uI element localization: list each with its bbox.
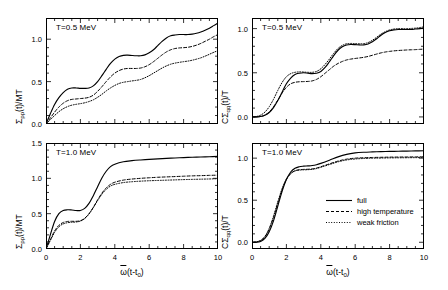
y-axis-label-symbol: Σ (14, 119, 24, 124)
y-tick-label: 1.0 (218, 154, 248, 163)
y-axis-label-subscript: pp (18, 237, 25, 244)
x-tick-label: 4 (113, 253, 117, 262)
omega-bar-symbol: ω (120, 267, 127, 277)
y-axis-label-symbol: CΣ (220, 238, 230, 249)
legend-item-high-temperature: high temperature (326, 206, 414, 217)
y-tick-label: 1.0 (12, 174, 42, 183)
y-tick-label: 1.0 (218, 24, 248, 33)
panel-title-top-right: T=0.5 MeV (262, 23, 302, 32)
y-axis-label-rest: (t)/MT (14, 214, 24, 237)
x-tick-label: 6 (353, 253, 357, 262)
x-tick-label: 2 (284, 253, 288, 262)
x-axis-label-close: ) (347, 267, 350, 277)
panel-title-bottom-left: T=1.0 MeV (56, 148, 96, 157)
y-axis-label-subscript: qq (224, 231, 231, 238)
x-axis-label-right: ω(t-t0) (326, 267, 349, 278)
x-tick-label: 10 (420, 253, 428, 262)
y-tick-label: 0.5 (12, 77, 42, 86)
panel-top-right: T=0.5 MeV (252, 18, 424, 124)
y-axis-label-subscript: qq (224, 106, 231, 113)
y-tick-label: 0.5 (218, 68, 248, 77)
legend-item-full: full (326, 195, 414, 206)
y-axis-label-symbol: Σ (14, 244, 24, 249)
plot-area-bottom-left (46, 143, 218, 249)
legend-swatch-dotted (326, 219, 352, 226)
x-tick-label: 0 (44, 253, 48, 262)
y-axis-label-symbol: CΣ (220, 113, 230, 124)
x-tick-label: 2 (78, 253, 82, 262)
y-tick-label: 0.5 (218, 196, 248, 205)
panel-top-left: T=0.5 MeV (46, 18, 218, 124)
x-axis-label-close: ) (141, 267, 144, 277)
legend-label-high-temperature: high temperature (357, 207, 414, 216)
x-axis-label-rest: (t-t (333, 267, 343, 277)
y-axis-label-subscript: pp (18, 112, 25, 119)
y-axis-label-bottom-right: CΣqq(t)/T (220, 215, 231, 249)
y-axis-label-top-right: CΣqq(t)/T (220, 90, 231, 124)
x-tick-label: 8 (182, 253, 186, 262)
legend-label-weak-friction: weak friction (357, 218, 399, 227)
omega-bar-symbol: ω (326, 267, 333, 277)
plot-area-top-right (252, 18, 424, 124)
x-axis-label-rest: (t-t (127, 267, 137, 277)
plot-area-top-left (46, 18, 218, 124)
x-tick-label: 0 (250, 253, 254, 262)
panel-bottom-right: T=1.0 MeV full high temperature weak fri… (252, 143, 424, 249)
y-axis-label-rest: (t)/MT (14, 89, 24, 112)
x-tick-label: 8 (388, 253, 392, 262)
panel-title-top-left: T=0.5 MeV (56, 23, 96, 32)
y-tick-label: 1.5 (12, 139, 42, 148)
x-axis-label-left: ω(t-t0) (120, 267, 143, 278)
legend-label-full: full (357, 196, 367, 205)
legend-item-weak-friction: weak friction (326, 217, 414, 228)
x-tick-label: 10 (214, 253, 222, 262)
legend-swatch-solid (326, 197, 352, 204)
figure-canvas: T=0.5 MeV 0.00.51.0 Σpp(t)/MT T=1.0 MeV … (0, 0, 448, 290)
y-tick-label: 1.0 (12, 35, 42, 44)
y-axis-label-top-left: Σpp(t)/MT (14, 89, 25, 124)
x-tick-label: 4 (319, 253, 323, 262)
panel-title-bottom-right: T=1.0 MeV (262, 148, 302, 157)
y-axis-label-rest: (t)/T (220, 215, 230, 231)
panel-bottom-left: T=1.0 MeV (46, 143, 218, 249)
x-tick-label: 6 (147, 253, 151, 262)
y-axis-label-rest: (t)/T (220, 90, 230, 106)
legend: full high temperature weak friction (326, 195, 414, 228)
y-axis-label-bottom-left: Σpp(t)/MT (14, 214, 25, 249)
legend-swatch-dashed (326, 208, 352, 215)
